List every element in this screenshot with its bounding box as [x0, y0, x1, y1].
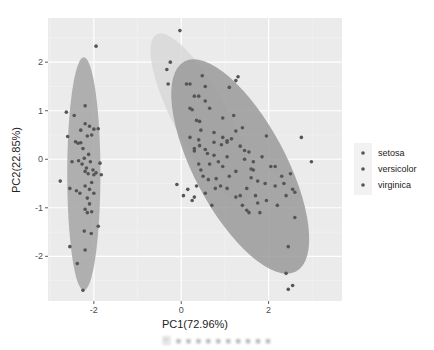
data-point-virginica — [289, 172, 293, 176]
data-point-versicolor — [185, 82, 189, 86]
data-point-setosa — [89, 160, 93, 164]
data-point-virginica — [256, 179, 260, 183]
data-point-setosa — [92, 127, 96, 131]
data-point-versicolor — [201, 174, 205, 178]
data-point-virginica — [254, 194, 258, 198]
y-tick-label: -2 — [35, 251, 43, 261]
data-point-setosa — [83, 122, 87, 126]
data-point-virginica — [236, 75, 240, 79]
data-point-setosa — [86, 134, 90, 138]
data-point-setosa — [91, 168, 95, 172]
data-point-setosa — [80, 162, 84, 166]
data-point-virginica — [243, 149, 247, 153]
x-tick-label: -2 — [90, 305, 98, 315]
data-point-setosa — [79, 141, 83, 145]
data-point-virginica — [284, 194, 288, 198]
data-point-setosa — [96, 127, 100, 131]
legend-key-versicolor — [361, 167, 365, 171]
data-point-setosa — [82, 156, 86, 160]
data-point-virginica — [243, 157, 247, 161]
data-point-virginica — [276, 204, 280, 208]
data-point-virginica — [232, 114, 236, 118]
x-axis-ticks: -202 — [90, 301, 271, 315]
data-point-setosa — [94, 171, 98, 175]
x-axis-title: PC1(72.96%) — [162, 318, 228, 330]
data-point-versicolor — [220, 143, 224, 147]
data-point-virginica — [256, 201, 260, 205]
y-tick-label: 1 — [38, 106, 43, 116]
legend-key-setosa — [361, 151, 365, 155]
data-point-virginica — [247, 150, 251, 154]
data-point-versicolor — [197, 162, 201, 166]
data-point-setosa — [90, 133, 94, 137]
data-point-setosa — [86, 172, 90, 176]
data-point-setosa — [99, 173, 103, 177]
data-point-versicolor — [203, 191, 207, 195]
data-point-virginica — [241, 126, 245, 130]
data-point-setosa — [79, 128, 83, 132]
data-point-versicolor — [193, 149, 197, 153]
data-point-virginica — [286, 288, 290, 292]
data-point-setosa — [90, 210, 94, 214]
data-point-versicolor — [188, 136, 192, 140]
data-point-versicolor — [178, 29, 182, 33]
data-point-virginica — [263, 182, 267, 186]
data-point-setosa — [68, 245, 72, 249]
legend-key-virginica — [361, 183, 365, 187]
data-point-versicolor — [203, 148, 207, 152]
y-tick-label: 2 — [38, 57, 43, 67]
data-point-setosa — [81, 289, 85, 293]
data-point-setosa — [85, 166, 89, 170]
data-point-setosa — [98, 161, 102, 165]
data-point-virginica — [247, 211, 251, 215]
data-point-setosa — [86, 211, 90, 215]
data-point-versicolor — [190, 199, 194, 203]
data-point-versicolor — [221, 136, 225, 140]
data-point-versicolor — [214, 187, 218, 191]
data-point-versicolor — [195, 119, 199, 123]
data-point-virginica — [249, 176, 253, 180]
data-point-virginica — [238, 194, 242, 198]
data-point-versicolor — [217, 160, 221, 164]
data-point-versicolor — [195, 184, 199, 188]
data-point-setosa — [88, 124, 92, 128]
data-point-virginica — [265, 134, 269, 138]
data-point-virginica — [241, 204, 245, 208]
data-point-virginica — [234, 170, 238, 174]
data-point-virginica — [245, 187, 249, 191]
data-point-virginica — [300, 136, 304, 140]
data-point-versicolor — [166, 82, 170, 86]
data-point-virginica — [252, 168, 256, 172]
data-point-virginica — [227, 174, 231, 178]
figure-caption: 图 ■ ■ ■ ■ ■ ■ ■ ■ ■ ■ — [0, 334, 434, 347]
data-point-setosa — [70, 160, 74, 164]
data-point-versicolor — [212, 131, 216, 135]
data-point-setosa — [86, 196, 90, 200]
data-point-versicolor — [203, 85, 207, 89]
data-point-setosa — [65, 110, 69, 114]
data-point-versicolor — [219, 184, 223, 188]
data-point-virginica — [273, 184, 277, 188]
data-point-versicolor — [188, 82, 192, 86]
data-point-virginica — [227, 86, 231, 90]
data-point-versicolor — [208, 162, 212, 166]
data-point-setosa — [92, 191, 96, 195]
data-point-setosa — [77, 159, 81, 163]
data-point-setosa — [75, 189, 79, 193]
x-tick-label: 2 — [266, 305, 271, 315]
data-point-setosa — [83, 207, 87, 211]
data-point-virginica — [286, 245, 290, 249]
data-point-setosa — [66, 135, 70, 139]
data-point-setosa — [83, 104, 87, 108]
data-point-versicolor — [182, 194, 186, 198]
data-point-setosa — [83, 184, 87, 188]
data-point-virginica — [291, 188, 295, 192]
data-point-versicolor — [197, 94, 201, 98]
data-point-virginica — [225, 140, 229, 144]
data-point-versicolor — [165, 68, 169, 72]
data-point-virginica — [293, 190, 297, 194]
legend-label-versicolor: versicolor — [378, 164, 417, 174]
data-point-setosa — [87, 153, 91, 157]
data-point-setosa — [81, 147, 85, 151]
data-point-virginica — [234, 79, 238, 83]
